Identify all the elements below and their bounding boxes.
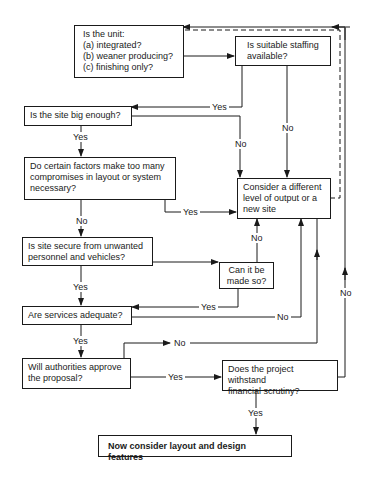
final-box: Now consider layout and design features: [98, 435, 292, 457]
label-staffing-no: No: [280, 123, 296, 133]
label-secure-yes: Yes: [71, 282, 90, 292]
label-financial-yes: Yes: [246, 408, 265, 418]
financial-line-2: financial scrutiny?: [228, 386, 332, 397]
label-services-yes: Yes: [71, 336, 90, 346]
label-authorities-yes: Yes: [166, 372, 185, 382]
label-factors-yes: Yes: [181, 207, 200, 217]
secure-line-2: personnel and vehicles?: [28, 252, 147, 263]
unit-type-box: Is the unit: (a) integrated? (b) weaner …: [74, 25, 184, 78]
services-box: Are services adequate?: [22, 306, 132, 325]
label-made-so-yes: Yes: [199, 302, 218, 312]
unit-option-integrated: (a) integrated?: [83, 40, 178, 51]
consider-line-1: Consider a different: [243, 182, 325, 193]
services-line: Are services adequate?: [28, 310, 126, 321]
site-size-box: Is the site big enough?: [24, 106, 132, 126]
authorities-line-2: the proposal?: [28, 373, 125, 384]
authorities-box: Will authorities approve the proposal?: [22, 358, 131, 389]
consider-line-2: level of output or a: [243, 193, 325, 204]
factors-line-3: necessary?: [30, 183, 170, 194]
unit-option-weaner: (b) weaner producing?: [83, 51, 178, 62]
authorities-line-1: Will authorities approve: [28, 362, 125, 373]
secure-line-1: Is site secure from unwanted: [28, 241, 147, 252]
staffing-line-1: Is suitable staffing: [247, 40, 325, 51]
final-line: Now consider layout and design features: [108, 441, 282, 463]
label-authorities-no: No: [172, 338, 188, 348]
secure-box: Is site secure from unwanted personnel a…: [22, 237, 153, 266]
factors-line-1: Do certain factors make too many: [30, 161, 170, 172]
label-staffing-yes: Yes: [210, 102, 229, 112]
made-so-line-2: made so?: [223, 276, 270, 287]
unit-type-title: Is the unit:: [83, 29, 178, 40]
label-financial-no: No: [338, 288, 354, 298]
unit-option-finishing: (c) finishing only?: [83, 62, 178, 73]
label-site-no: No: [233, 139, 249, 149]
label-factors-no: No: [74, 216, 90, 226]
label-made-so-no: No: [249, 233, 265, 243]
consider-box: Consider a different level of output or …: [237, 178, 331, 219]
label-site-yes: Yes: [71, 132, 90, 142]
financial-box: Does the project withstand financial scr…: [222, 360, 338, 391]
site-size-line: Is the site big enough?: [30, 110, 126, 121]
consider-line-3: new site: [243, 204, 325, 215]
made-so-line-1: Can it be: [223, 265, 270, 276]
staffing-line-2: available?: [247, 51, 325, 62]
factors-line-2: compromises in layout or system: [30, 172, 170, 183]
label-services-no: No: [275, 312, 291, 322]
factors-box: Do certain factors make too many comprom…: [24, 157, 176, 200]
staffing-box: Is suitable staffing available?: [235, 36, 331, 66]
made-so-box: Can it be made so?: [219, 262, 274, 289]
financial-line-1: Does the project withstand: [228, 364, 332, 386]
